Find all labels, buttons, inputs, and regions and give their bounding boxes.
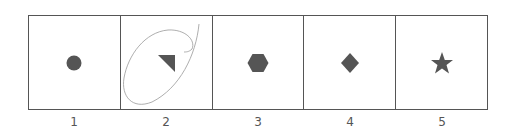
diamond-icon	[340, 52, 360, 74]
hexagon-icon	[247, 53, 269, 73]
cell-label-3: 3	[212, 115, 304, 129]
cell-1[interactable]	[29, 16, 121, 109]
star-icon	[430, 51, 454, 75]
cell-3[interactable]	[213, 16, 305, 109]
circle-icon	[66, 55, 82, 71]
cell-4[interactable]	[304, 16, 396, 109]
cell-label-4: 4	[304, 115, 396, 129]
shape-sequence-strip	[28, 15, 488, 110]
cell-labels: 1 2 3 4 5	[28, 115, 488, 129]
triangle-icon	[158, 54, 178, 74]
cell-label-1: 1	[28, 115, 120, 129]
cell-label-2: 2	[120, 115, 212, 129]
cell-5[interactable]	[396, 16, 487, 109]
cell-2[interactable]	[121, 16, 213, 109]
cell-label-5: 5	[396, 115, 488, 129]
